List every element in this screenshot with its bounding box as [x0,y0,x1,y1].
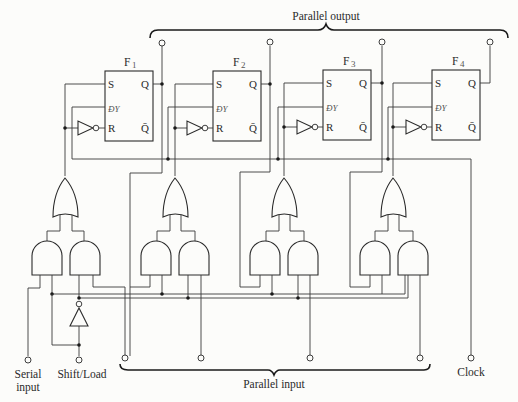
parallel-output-terminals [159,39,493,46]
or-gates [53,178,406,217]
parallel-input-1-terminal [122,355,128,361]
input-terminals [25,355,474,363]
flipflop-f3: S ƉΥ R Q Q̄ F 3 [323,55,371,140]
svg-text:ƉΥ: ƉΥ [215,104,228,114]
svg-text:Q: Q [468,77,476,89]
svg-text:Q̄: Q̄ [359,121,367,133]
svg-text:F: F [124,56,130,68]
svg-text:4: 4 [460,59,465,69]
svg-text:3: 3 [351,59,356,69]
svg-text:Q̄: Q̄ [249,122,257,134]
control-wiring [28,275,420,356]
svg-text:Q: Q [141,78,149,90]
shift-load-label: Shift/Load [57,368,106,380]
flipflop-f4: S ƉΥ R Q Q̄ F 4 [432,55,480,140]
serial-input-label-2: input [16,381,40,394]
svg-text:F: F [233,56,239,68]
svg-text:S: S [216,78,222,90]
serial-input-terminal [25,357,31,363]
svg-text:F: F [343,55,349,67]
svg-text:R: R [108,122,116,134]
parallel-input-4-terminal [417,355,423,361]
parallel-input-2-terminal [198,355,204,361]
or-and-wiring [47,215,413,241]
parallel-output-brace [150,24,508,38]
parallel-input-brace [120,364,430,375]
parallel-input-3-terminal [307,355,313,361]
svg-text:Q: Q [249,78,257,90]
svg-text:ƉΥ: ƉΥ [434,103,447,113]
clock-label: Clock [457,366,485,378]
sr-input-wiring [63,83,432,176]
svg-text:S: S [435,77,441,89]
shift-register-diagram: Parallel output S ƉΥ R Q Q̄ F 1 S ƉΥ R Q… [0,0,518,402]
and-gates [32,241,428,275]
svg-text:Q̄: Q̄ [468,121,476,133]
svg-text:2: 2 [241,60,246,70]
svg-text:R: R [435,121,443,133]
svg-text:1: 1 [132,60,137,70]
svg-text:R: R [216,122,224,134]
flipflop-f1: S ƉΥ R Q Q̄ F 1 [105,56,153,141]
parallel-input-label: Parallel input [243,378,305,391]
svg-text:ƉΥ: ƉΥ [107,104,120,114]
clock-wiring [72,107,471,356]
svg-text:Q: Q [359,77,367,89]
svg-text:Q̄: Q̄ [141,122,149,134]
svg-text:R: R [326,121,334,133]
clock-terminal [468,355,474,361]
svg-text:ƉΥ: ƉΥ [325,103,338,113]
flipflop-f2: S ƉΥ R Q Q̄ F 2 [213,56,261,141]
svg-text:S: S [326,77,332,89]
serial-input-label-1: Serial [15,368,42,380]
svg-text:S: S [108,78,114,90]
parallel-output-label: Parallel output [292,10,360,23]
svg-text:F: F [452,55,458,67]
shift-load-terminal [76,357,82,363]
